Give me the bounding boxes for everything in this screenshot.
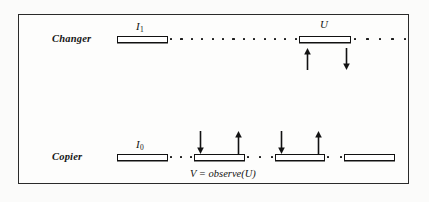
row-label-copier: Copier — [52, 151, 82, 162]
dots-second-third — [247, 156, 273, 159]
arrow-up-receive-1 — [234, 131, 243, 158]
figure-canvas: ChangerI1UCopierI0V = observe(U) — [0, 0, 429, 202]
dots-after-i1 — [170, 38, 297, 41]
label-u: U — [320, 18, 328, 30]
arrow-down-send-1 — [196, 131, 205, 158]
bar-u — [299, 36, 351, 43]
row-label-changer: Changer — [52, 33, 91, 44]
arrow-up-receive-u — [303, 48, 312, 74]
label-i1-subscript: 1 — [140, 25, 144, 34]
arrow-up-receive-2 — [314, 131, 323, 158]
dots-i0-second — [170, 156, 192, 159]
bar-i1 — [117, 36, 168, 43]
label-i1: I1 — [136, 20, 143, 32]
figure-caption: V = observe(U) — [190, 168, 256, 179]
bar-i0 — [117, 154, 168, 161]
bar-fourth — [344, 154, 395, 161]
arrow-down-send-2 — [277, 131, 286, 158]
dots-after-u — [354, 38, 406, 41]
label-i0-subscript: 0 — [140, 143, 144, 152]
dots-third-fourth — [327, 156, 342, 159]
arrow-down-send-u — [342, 48, 351, 74]
label-i0: I0 — [136, 138, 143, 150]
